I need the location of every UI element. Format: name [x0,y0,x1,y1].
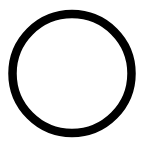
canvas [0,0,146,148]
circle-outline [13,14,132,133]
circle-outline-icon [0,0,146,148]
